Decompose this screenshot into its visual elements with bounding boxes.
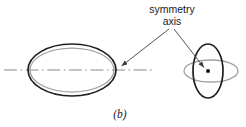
symmetry-axis-figure: symmetry axis (b) xyxy=(0,0,246,127)
axis-point-marker xyxy=(206,69,209,72)
annotation-line-1: symmetry xyxy=(149,3,195,15)
figure-container: symmetry axis (b) xyxy=(0,0,246,127)
annotation-line-2: axis xyxy=(163,15,182,27)
figure-caption: (b) xyxy=(113,108,127,121)
